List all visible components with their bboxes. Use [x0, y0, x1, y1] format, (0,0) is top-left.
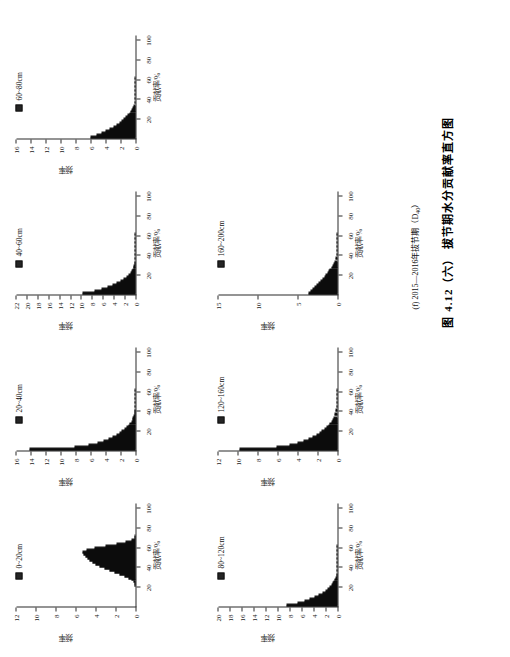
- y-axis-label: 频率: [59, 633, 73, 644]
- y-tick: [55, 607, 56, 611]
- histogram-bar: [134, 404, 135, 407]
- plot-area: 20406080100051015: [218, 191, 338, 295]
- histogram-bar: [134, 92, 135, 95]
- y-tick-label: 20: [214, 614, 222, 621]
- histogram-bar: [336, 544, 337, 547]
- histogram-bar: [134, 80, 135, 83]
- y-tick: [217, 607, 218, 611]
- y-tick: [124, 295, 125, 299]
- y-tick-label: 2: [117, 146, 125, 150]
- x-axis-label: 贡献率/%: [150, 503, 161, 607]
- y-tick-label: 4: [102, 458, 110, 462]
- histogram-bars: [16, 35, 135, 138]
- y-tick: [135, 139, 136, 143]
- y-axis-label: 频率: [59, 321, 73, 332]
- x-tick: [136, 59, 140, 60]
- x-tick: [338, 430, 342, 431]
- y-tick: [60, 139, 61, 143]
- y-tick-label: 10: [57, 146, 65, 153]
- subcaption-subscript: 40: [415, 207, 421, 213]
- x-tick: [338, 254, 342, 255]
- x-tick: [338, 507, 342, 508]
- y-tick-label: 12: [262, 614, 270, 621]
- y-tick-label: 6: [87, 458, 95, 462]
- y-tick-label: 22: [12, 302, 20, 309]
- histogram-bar: [134, 240, 135, 243]
- histogram-bar: [336, 548, 337, 551]
- histogram-bar: [336, 560, 337, 563]
- y-tick: [48, 295, 49, 299]
- histogram-bars: [218, 191, 337, 294]
- histogram-bars: [16, 503, 135, 606]
- y-tick-label: 5: [294, 302, 302, 306]
- y-tick: [75, 451, 76, 455]
- x-tick: [338, 586, 342, 587]
- x-tick: [338, 527, 342, 528]
- y-axis-label: 频率: [261, 477, 275, 488]
- y-axis-label: 频率: [261, 633, 275, 644]
- x-tick: [136, 507, 140, 508]
- y-tick-label: 16: [45, 302, 53, 309]
- histogram-bar: [336, 568, 337, 571]
- x-tick: [338, 410, 342, 411]
- y-tick: [135, 607, 136, 611]
- histogram-bar: [336, 396, 337, 399]
- histogram-bar: [134, 408, 135, 411]
- y-tick: [135, 295, 136, 299]
- y-tick: [91, 295, 92, 299]
- y-tick: [115, 607, 116, 611]
- y-tick: [95, 607, 96, 611]
- histogram-bar: [336, 236, 337, 239]
- histogram-bars: [218, 503, 337, 606]
- histogram-bar: [134, 244, 135, 247]
- histogram-bar: [134, 88, 135, 91]
- y-tick: [113, 295, 114, 299]
- y-tick: [229, 607, 230, 611]
- plot-area: 2040608010002468101214161820: [218, 503, 338, 607]
- histogram-bar: [334, 412, 337, 415]
- y-tick: [45, 139, 46, 143]
- y-tick: [15, 295, 16, 299]
- y-tick-label: 2: [322, 614, 330, 618]
- y-tick: [325, 607, 326, 611]
- y-tick: [105, 451, 106, 455]
- histogram-bar: [336, 552, 337, 555]
- histogram-bar: [134, 236, 135, 239]
- y-tick-label: 10: [32, 614, 40, 621]
- y-tick: [37, 295, 38, 299]
- histogram-bar: [134, 252, 135, 255]
- histogram-bar: [336, 400, 337, 403]
- x-axis-label: 贡献率/%: [352, 191, 363, 295]
- x-tick: [136, 254, 140, 255]
- x-tick: [136, 391, 140, 392]
- y-tick: [15, 139, 16, 143]
- subplot-grid: 0~20cm20406080100024681012贡献率/%频率20~40cm…: [0, 0, 510, 657]
- x-tick: [136, 351, 140, 352]
- histogram-bar: [336, 252, 337, 255]
- subplot-60-80cm: 60~80cm204060801000246810121416贡献率/%频率: [8, 25, 193, 173]
- y-tick: [301, 607, 302, 611]
- y-tick-label: 10: [77, 302, 85, 309]
- x-tick: [136, 79, 140, 80]
- histogram-bar: [335, 408, 337, 411]
- y-tick: [35, 607, 36, 611]
- x-tick: [136, 371, 140, 372]
- x-tick: [136, 274, 140, 275]
- y-tick: [313, 607, 314, 611]
- subplot-160-200cm: 160~200cm20406080100051015贡献率/%频率: [210, 181, 395, 329]
- histogram-bar: [134, 400, 135, 403]
- y-tick-label: 15: [214, 302, 222, 309]
- y-tick: [80, 295, 81, 299]
- subplot-120-160cm: 120~160cm20406080100024681012贡献率/%频率: [210, 337, 395, 485]
- y-tick: [277, 451, 278, 455]
- histogram-bar: [336, 240, 337, 243]
- y-tick-label: 20: [23, 302, 31, 309]
- y-tick-label: 0: [132, 302, 140, 306]
- figure-page: 0~20cm20406080100024681012贡献率/%频率20~40cm…: [0, 0, 510, 657]
- y-tick: [30, 451, 31, 455]
- y-tick: [217, 451, 218, 455]
- y-tick: [217, 295, 218, 299]
- y-tick-label: 4: [310, 614, 318, 618]
- y-tick-label: 6: [274, 458, 282, 462]
- y-tick: [120, 139, 121, 143]
